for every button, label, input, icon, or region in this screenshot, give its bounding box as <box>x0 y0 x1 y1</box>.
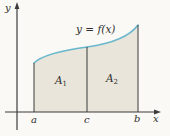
tick-label-c: c <box>84 115 90 125</box>
area-under-curve-figure: y x y = f(x) a c b A1 A2 <box>0 0 170 136</box>
region-label-a2: A2 <box>106 73 118 84</box>
region-label-a1-base: A <box>55 74 63 86</box>
x-axis-label: x <box>153 114 159 124</box>
y-axis-arrow-icon <box>15 2 20 9</box>
tick-label-a: a <box>31 115 37 125</box>
tick-label-b: b <box>134 114 140 124</box>
region-label-a1: A1 <box>55 75 67 86</box>
curve-equation-label: y = f(x) <box>76 24 115 35</box>
region-label-a2-base: A <box>106 72 114 84</box>
region-label-a2-sub: 2 <box>114 78 118 86</box>
y-axis-label: y <box>5 3 11 13</box>
region-label-a1-sub: 1 <box>63 80 67 88</box>
